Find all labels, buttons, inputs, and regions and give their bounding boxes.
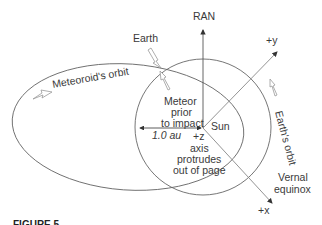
meteor-pointer-arrow-icon [160,71,170,90]
earth-label: Earth [133,32,158,44]
figure-caption: FIGURE 5 [13,219,60,225]
z-label-line1: +z [193,130,204,142]
distance-label: 1.0 au [152,129,181,141]
earth-orbit-direction-arrow-icon [270,79,277,96]
meteoroid-direction-arrow-icon [33,90,52,99]
earth-pointer-arrow-icon [148,48,161,68]
plus-y-label: +y [266,34,278,46]
meteoroid-orbit-label: Meteoroid's orbit [51,65,129,90]
orbit-diagram: RAN +y +x Earth Meteoroid's orbit Meteor… [0,0,322,225]
vernal-label-line1: Vernal [278,171,308,183]
meteor-label-line3: to impact [161,117,204,129]
ran-label: RAN [193,10,215,22]
vernal-label-line2: equinox [274,183,312,195]
z-label-line4: out of page [173,164,226,176]
earth-orbit-label: Earth's orbit [273,109,299,166]
sun-label: Sun [211,120,230,132]
plus-x-label: +x [258,204,270,216]
